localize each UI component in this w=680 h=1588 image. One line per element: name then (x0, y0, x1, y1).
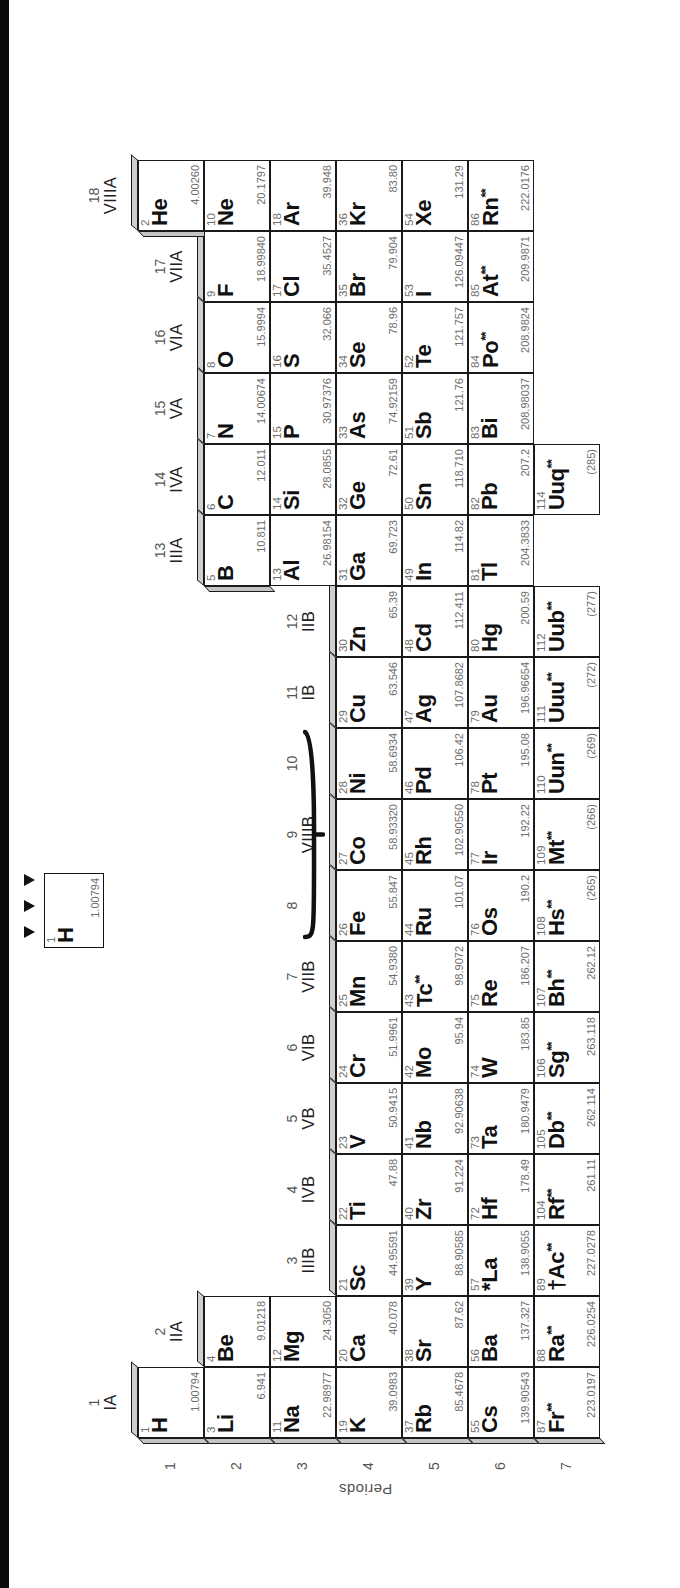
shelf-top-face (329, 1219, 336, 1296)
element-cell[interactable]: 37Rb85.4678 (402, 1367, 468, 1438)
element-cell[interactable]: 1H1.00794 (138, 1367, 204, 1438)
element-atomic-weight: 88.90585 (454, 1230, 465, 1276)
element-cell[interactable]: 21Sc44.95591 (336, 1225, 402, 1296)
element-symbol: Mg (281, 1331, 303, 1362)
element-cell[interactable]: 77Ir192.22 (468, 799, 534, 870)
element-cell[interactable]: 16S32.066 (270, 302, 336, 373)
element-cell[interactable]: 20Ca40.078 (336, 1296, 402, 1367)
element-cell[interactable]: 50Sn118.710 (402, 444, 468, 515)
element-cell[interactable]: 109Mt**(266) (534, 799, 600, 870)
element-cell[interactable]: 19K39.0983 (336, 1367, 402, 1438)
element-cell[interactable]: 25Mn54.9380 (336, 941, 402, 1012)
element-symbol: Rf** (545, 1189, 568, 1220)
element-cell[interactable]: 48Cd112.411 (402, 586, 468, 657)
element-cell[interactable]: 84Po**208.9824 (468, 302, 534, 373)
element-cell[interactable]: 114Uuq**(285) (534, 444, 600, 515)
element-cell[interactable]: 22Ti47.88 (336, 1154, 402, 1225)
element-cell[interactable]: 8O15.9994 (204, 302, 270, 373)
element-symbol: Nb (413, 1120, 435, 1149)
element-cell[interactable]: 7N14.00674 (204, 373, 270, 444)
element-cell[interactable]: 83Bi208.98037 (468, 373, 534, 444)
element-cell[interactable]: 53I126.09447 (402, 231, 468, 302)
element-cell[interactable]: 30Zn65.39 (336, 586, 402, 657)
element-cell[interactable]: 45Rh102.90550 (402, 799, 468, 870)
element-cell[interactable]: 51Sb121.76 (402, 373, 468, 444)
element-cell[interactable]: 10Ne20.1797 (204, 160, 270, 231)
element-cell[interactable]: 110Uun**(269) (534, 728, 600, 799)
element-cell[interactable]: 12Mg24.3050 (270, 1296, 336, 1367)
element-atomic-weight: 63.546 (388, 662, 399, 696)
element-cell[interactable]: 89†Ac**227.0278 (534, 1225, 600, 1296)
element-cell[interactable]: 14Si28.0855 (270, 444, 336, 515)
element-cell[interactable]: 40Zr91.224 (402, 1154, 468, 1225)
element-cell[interactable]: 35Br79.904 (336, 231, 402, 302)
element-cell[interactable]: 49In114.82 (402, 515, 468, 586)
element-cell[interactable]: 39Y88.90585 (402, 1225, 468, 1296)
element-cell[interactable]: 81Tl204.3833 (468, 515, 534, 586)
element-cell[interactable]: 3Li6.941 (204, 1367, 270, 1438)
element-cell[interactable]: 38Sr87.62 (402, 1296, 468, 1367)
element-cell[interactable]: 26Fe55.847 (336, 870, 402, 941)
element-cell[interactable]: 82Pb207.2 (468, 444, 534, 515)
element-cell[interactable]: 86Rn**222.0176 (468, 160, 534, 231)
element-cell[interactable]: 6C12.011 (204, 444, 270, 515)
element-cell[interactable]: 41Nb92.90638 (402, 1083, 468, 1154)
element-cell[interactable]: 17Cl35.4527 (270, 231, 336, 302)
group-header: 8 (285, 870, 300, 941)
element-cell[interactable]: 75Re186.207 (468, 941, 534, 1012)
element-cell[interactable]: 13Al26.98154 (270, 515, 336, 586)
element-cell[interactable]: 44Ru101.07 (402, 870, 468, 941)
element-cell[interactable]: 105Db**262.114 (534, 1083, 600, 1154)
element-cell[interactable]: 106Sg**263.118 (534, 1012, 600, 1083)
element-cell[interactable]: 87Fr**223.0197 (534, 1367, 600, 1438)
element-cell[interactable]: 34Se78.96 (336, 302, 402, 373)
shelf-top-face (329, 1006, 336, 1083)
element-cell[interactable]: 108Hs**(265) (534, 870, 600, 941)
element-atomic-weight: 200.59 (520, 591, 531, 625)
element-cell[interactable]: 42Mo95.94 (402, 1012, 468, 1083)
element-cell[interactable]: 33As74.92159 (336, 373, 402, 444)
element-cell[interactable]: 32Ge72.61 (336, 444, 402, 515)
element-cell[interactable]: 24Cr51.9961 (336, 1012, 402, 1083)
element-cell[interactable]: 28Ni58.6934 (336, 728, 402, 799)
element-cell[interactable]: 18Ar39.948 (270, 160, 336, 231)
element-cell[interactable]: 111Uuu**(272) (534, 657, 600, 728)
element-cell[interactable]: 31Ga69.723 (336, 515, 402, 586)
element-cell[interactable]: 5B10.811 (204, 515, 270, 586)
element-cell[interactable]: 47Ag107.8682 (402, 657, 468, 728)
group-roman: IA (102, 1367, 119, 1438)
element-cell[interactable]: 73Ta180.9479 (468, 1083, 534, 1154)
group-roman: IVB (300, 1154, 317, 1225)
element-cell[interactable]: 4Be9.01218 (204, 1296, 270, 1367)
element-cell[interactable]: 74W183.85 (468, 1012, 534, 1083)
element-cell[interactable]: 107Bh**262.12 (534, 941, 600, 1012)
element-cell[interactable]: 79Au196.96654 (468, 657, 534, 728)
element-cell[interactable]: 55Cs139.90543 (468, 1367, 534, 1438)
element-cell[interactable]: 43Tc**98.9072 (402, 941, 468, 1012)
element-cell[interactable]: 36Kr83.80 (336, 160, 402, 231)
element-cell[interactable]: 9F18.99840 (204, 231, 270, 302)
element-cell[interactable]: 52Te121.757 (402, 302, 468, 373)
element-cell[interactable]: 78Pt195.08 (468, 728, 534, 799)
element-cell[interactable]: 85At**209.9871 (468, 231, 534, 302)
element-symbol-text: Bh (544, 978, 569, 1007)
element-cell[interactable]: 104Rf**261.11 (534, 1154, 600, 1225)
group-header: 3IIIB (285, 1225, 317, 1296)
element-cell[interactable]: 54Xe131.29 (402, 160, 468, 231)
element-cell[interactable]: 27Co58.93320 (336, 799, 402, 870)
element-cell[interactable]: 56Ba137.327 (468, 1296, 534, 1367)
element-cell[interactable]: 11Na22.98977 (270, 1367, 336, 1438)
element-cell[interactable]: 57*La138.9055 (468, 1225, 534, 1296)
element-cell[interactable]: 2He4.00260 (138, 160, 204, 231)
element-cell[interactable]: 112Uub**(277) (534, 586, 600, 657)
element-cell[interactable]: 23V50.9415 (336, 1083, 402, 1154)
element-atomic-weight: 263.118 (586, 1017, 597, 1056)
element-cell[interactable]: 46Pd106.42 (402, 728, 468, 799)
element-cell[interactable]: 80Hg200.59 (468, 586, 534, 657)
element-cell[interactable]: 15P30.97376 (270, 373, 336, 444)
element-cell[interactable]: 88Ra**226.0254 (534, 1296, 600, 1367)
element-cell[interactable]: 76Os190.2 (468, 870, 534, 941)
element-symbol-text: V (345, 1135, 370, 1149)
element-cell[interactable]: 29Cu63.546 (336, 657, 402, 728)
element-cell[interactable]: 72Hf178.49 (468, 1154, 534, 1225)
